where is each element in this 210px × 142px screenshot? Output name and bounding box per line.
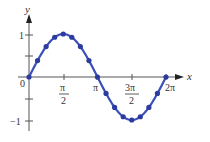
- y-tick-label-neg1: −1: [10, 116, 21, 127]
- data-point-marker: [44, 44, 49, 49]
- x-tick-label-3pi-half-num: 3π: [125, 82, 135, 93]
- y-axis-arrow-icon: [26, 14, 32, 23]
- y-tick-label-1: 1: [19, 30, 24, 41]
- x-axis-label: x: [186, 70, 192, 82]
- origin-label: 0: [20, 78, 25, 89]
- data-point-marker: [103, 91, 108, 96]
- x-tick-label-3pi-half-den: 2: [129, 95, 134, 106]
- data-point-marker: [78, 44, 83, 49]
- data-point-marker: [26, 74, 31, 79]
- data-point-marker: [121, 114, 126, 119]
- data-point-marker: [35, 58, 40, 63]
- data-point-marker: [163, 74, 168, 79]
- data-point-marker: [112, 105, 117, 110]
- x-tick-label-pi: π: [93, 82, 98, 93]
- data-point-marker: [95, 74, 100, 79]
- data-point-marker: [61, 31, 66, 36]
- x-tick-label-2pi: 2π: [165, 82, 175, 93]
- x-tick-label-pi-half-den: 2: [61, 95, 66, 106]
- x-tick-label-pi-half-num: π: [60, 82, 65, 93]
- data-point-marker: [138, 114, 143, 119]
- data-point-marker: [155, 91, 160, 96]
- data-point-marker: [86, 58, 91, 63]
- data-point-marker: [52, 35, 57, 40]
- data-point-marker: [146, 105, 151, 110]
- sine-chart: y x 0 1 −1 π 2 π 3π 2 2π: [0, 0, 210, 142]
- data-point-marker: [129, 117, 134, 122]
- y-axis-label: y: [24, 3, 30, 15]
- data-point-marker: [69, 35, 74, 40]
- x-axis-arrow-icon: [175, 74, 184, 80]
